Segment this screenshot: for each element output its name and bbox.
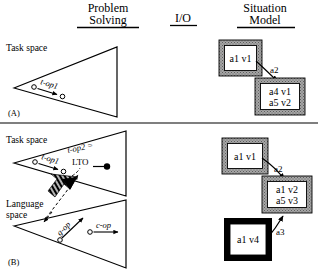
sm-node-a4v1-panelA: a4 v1 a5 v2 <box>255 78 305 115</box>
operator-c-op: c-op <box>88 220 118 234</box>
language-space-triangle-b <box>14 200 126 268</box>
language-space-label-line2: space <box>6 210 27 220</box>
operator-t-op2-lto: t-op2 = LTO <box>66 140 110 170</box>
header-io-line1: I/O <box>175 11 191 25</box>
operator-g-op-label: g-op <box>54 219 72 237</box>
operator-g-op: g-op <box>54 218 83 242</box>
diagram-canvas: Problem Solving I/O Situation Model Task… <box>0 0 318 273</box>
operator-end-node-a <box>60 94 65 99</box>
operator-t-op1-b-label: t-op1 <box>40 151 60 166</box>
sm-node-a1v1-panelA: a1 v1 <box>219 40 262 76</box>
sm-arc-label-a3: a3 <box>276 227 285 237</box>
dashed-hook-to-lto <box>72 168 80 176</box>
sm-node-a1v1-panelB: a1 v1 <box>222 138 268 174</box>
operator-c-op-label: c-op <box>96 220 111 230</box>
operator-c-op-node <box>88 230 93 235</box>
operator-lto-filled-node <box>104 163 110 169</box>
sm-node-text-line1: a1 v1 <box>234 151 256 162</box>
figure-root: Problem Solving I/O Situation Model Task… <box>0 0 318 273</box>
panel-label-b: (B) <box>8 257 20 267</box>
sm-node-a1v2-panelB: a1 v2 a5 v3 <box>262 176 312 213</box>
sm-node-a1v4-panelB: a1 v4 <box>224 218 272 261</box>
sm-node-text-line1: a1 v2 <box>276 184 298 195</box>
sm-node-text-line1: a1 v4 <box>237 234 259 245</box>
sm-arc-label-a2: a2 <box>270 65 279 75</box>
header-problem-solving: Problem Solving <box>77 1 139 28</box>
operator-end-node-b <box>61 169 66 174</box>
header-situation-model: Situation Model <box>237 1 295 28</box>
operator-start-node-a <box>32 85 37 90</box>
bold-hatched-arrow-shape <box>48 174 77 197</box>
operator-t-op2-label: t-op2 = <box>66 140 93 155</box>
sm-node-text-line2: a5 v2 <box>269 97 291 108</box>
header-problem-solving-line2: Solving <box>89 13 126 27</box>
sm-node-text-line1: a4 v1 <box>269 86 291 97</box>
operator-t-op1-a: t-op1 <box>32 76 65 98</box>
operator-lto-label: LTO <box>72 157 89 167</box>
task-space-triangle-a <box>14 47 117 117</box>
operator-g-op-node <box>58 238 63 243</box>
sm-node-text-line1: a1 v1 <box>230 53 252 64</box>
sm-node-text-line2: a5 v3 <box>276 195 298 206</box>
language-space-label-line1: Language <box>6 199 43 209</box>
panel-label-a: (A) <box>8 108 20 118</box>
sm-arc-label-a2: a2 <box>274 164 283 174</box>
operator-start-node-b <box>33 160 38 165</box>
operator-t-op1-a-label: t-op1 <box>39 76 59 91</box>
header-situation-model-line2: Model <box>249 13 281 27</box>
bold-hatched-arrow <box>48 174 77 197</box>
header-io: I/O <box>170 11 197 26</box>
task-space-label-a: Task space <box>6 43 47 53</box>
task-space-label-b: Task space <box>6 135 47 145</box>
